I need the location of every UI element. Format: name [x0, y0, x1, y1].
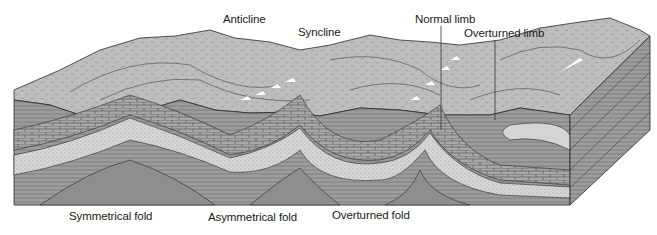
label-asymmetrical-fold: Asymmetrical fold — [208, 211, 297, 223]
label-anticline: Anticline — [223, 13, 266, 25]
label-overturned-fold: Overturned fold — [332, 209, 410, 221]
label-syncline: Syncline — [298, 26, 341, 38]
label-symmetrical-fold: Symmetrical fold — [69, 210, 152, 222]
label-overturned-limb: Overturned limb — [464, 27, 544, 39]
label-normal-limb: Normal limb — [415, 13, 475, 25]
